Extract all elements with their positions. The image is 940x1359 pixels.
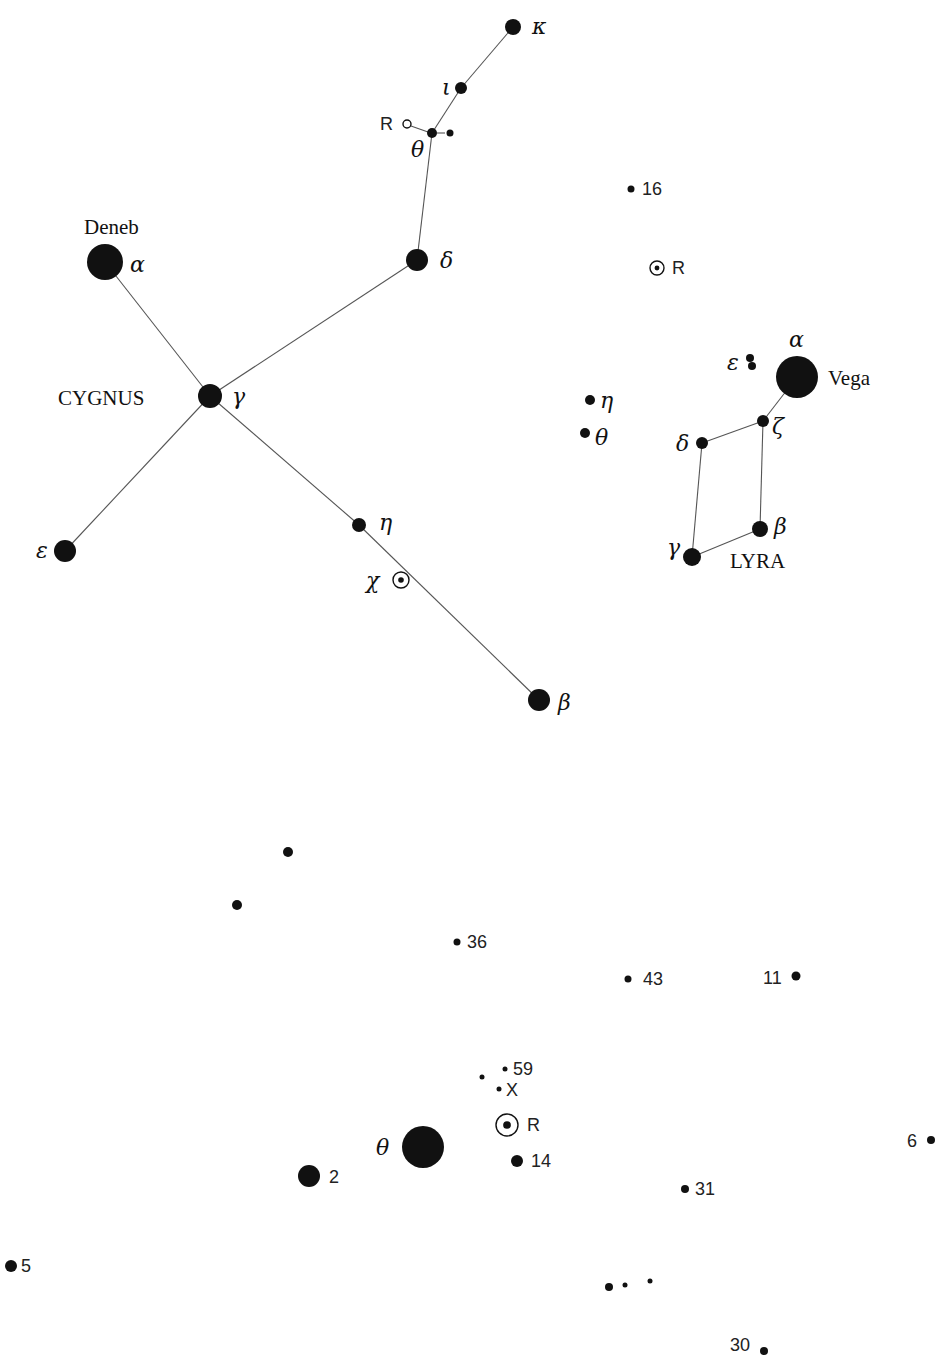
star-cygnus-gamma (198, 384, 222, 408)
field-star (298, 1165, 320, 1187)
star-label: η (379, 510, 392, 535)
star-cygnus-theta-companion (447, 130, 454, 137)
field-star-label: R (672, 258, 685, 278)
star-cygnus-iota (455, 82, 467, 94)
field-star-label: 31 (695, 1179, 715, 1199)
constellation-line (760, 421, 763, 529)
field-star (496, 1114, 518, 1136)
field-star (585, 395, 595, 405)
star-name: Deneb (84, 215, 139, 239)
constellation-line (210, 396, 359, 525)
field-star-label: 2 (329, 1167, 339, 1187)
pointer-line (411, 126, 428, 132)
star-label: δ (676, 431, 689, 456)
stars (5, 19, 935, 1355)
constellation-line (702, 421, 763, 443)
star-label: α (130, 252, 145, 277)
star-lyra-epsilon (746, 354, 756, 370)
star-lyra-gamma (683, 548, 701, 566)
star-label: θ (411, 137, 424, 162)
field-star (580, 428, 590, 438)
star-lyra-zeta (757, 415, 769, 427)
star-label: β (557, 690, 571, 715)
field-star (648, 1279, 653, 1284)
star-label: ζ (772, 414, 786, 439)
field-star-label: 14 (531, 1151, 551, 1171)
field-star (650, 261, 664, 275)
field-star-label: X (506, 1080, 518, 1100)
star-name: Vega (828, 366, 871, 390)
field-star-label: 36 (467, 932, 487, 952)
constellation-line (105, 262, 210, 396)
star-cygnus-alpha (87, 244, 123, 280)
star-lyra-delta (696, 437, 708, 449)
field-star-label: 6 (907, 1131, 917, 1151)
star-label: ε (727, 350, 739, 375)
star-chart: αDenebγδθικεηβRχCYGNUSαVegaεζδβγLYRA16Rη… (0, 0, 940, 1359)
field-star (497, 1087, 502, 1092)
star-cygnus-theta (427, 128, 437, 138)
field-star (681, 1185, 689, 1193)
star-lyra-alpha (776, 356, 818, 398)
field-star (5, 1260, 17, 1272)
field-star (454, 939, 461, 946)
field-star-label: 59 (513, 1059, 533, 1079)
field-star-label: 11 (763, 968, 782, 988)
star-label: α (789, 327, 804, 352)
field-star (625, 976, 632, 983)
field-star (623, 1283, 628, 1288)
star-label: κ (531, 14, 547, 39)
star-label: β (773, 514, 787, 539)
constellation-line (461, 27, 513, 88)
star-cygnus-delta (406, 249, 428, 271)
field-star (480, 1075, 485, 1080)
constellation-line (359, 525, 539, 700)
star-label: ι (442, 75, 451, 100)
field-star-label: 5 (21, 1256, 31, 1276)
star-cygnus-kappa (505, 19, 521, 35)
field-star-label: R (527, 1115, 540, 1135)
constellation-line (210, 260, 417, 396)
constellation-line (65, 396, 210, 551)
field-star (503, 1067, 508, 1072)
variable-star-chi-cyg (393, 572, 409, 588)
field-star (232, 900, 242, 910)
field-star-label: 43 (643, 969, 663, 989)
star-labels: αDenebγδθικεηβRχCYGNUSαVegaεζδβγLYRA16Rη… (21, 14, 917, 1355)
field-star (283, 847, 293, 857)
field-star (792, 972, 801, 981)
star-label: γ (232, 384, 246, 409)
field-star (605, 1283, 613, 1291)
star-label: δ (440, 248, 453, 273)
variable-star-R-cyg (403, 120, 411, 128)
field-star (402, 1126, 444, 1168)
star-cygnus-beta (528, 689, 550, 711)
star-label: ε (36, 538, 48, 563)
constellation-name: LYRA (730, 549, 786, 573)
variable-star-label: R (380, 114, 393, 134)
field-star-label: η (600, 388, 613, 413)
star-cygnus-eta (352, 518, 366, 532)
constellation-name: CYGNUS (58, 386, 144, 410)
variable-star-label: χ (364, 568, 381, 593)
field-star (628, 186, 635, 193)
field-star-label: 16 (642, 179, 662, 199)
field-star (511, 1155, 523, 1167)
star-cygnus-epsilon (54, 540, 76, 562)
field-star (760, 1347, 768, 1355)
field-star (927, 1136, 935, 1144)
constellation-line (692, 443, 702, 557)
star-lyra-beta (752, 521, 768, 537)
field-star-label: θ (376, 1135, 389, 1160)
constellation-lines (65, 27, 797, 700)
field-star-label: θ (595, 425, 608, 450)
field-star-label: 30 (730, 1335, 750, 1355)
star-label: γ (667, 535, 681, 560)
